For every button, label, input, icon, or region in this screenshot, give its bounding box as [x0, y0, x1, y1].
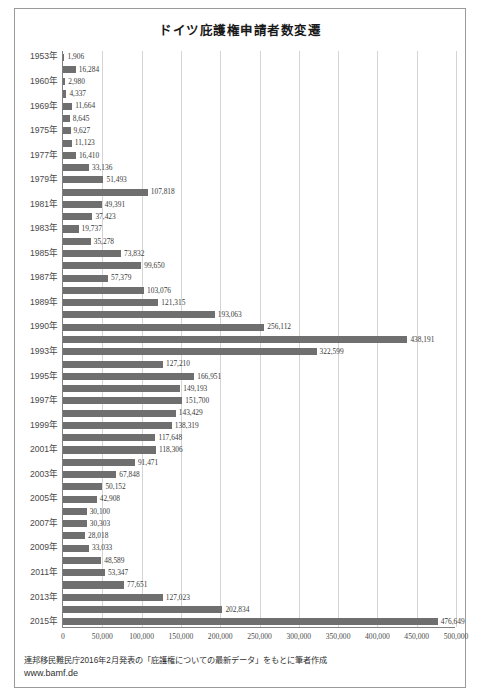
y-axis-tick-label: 1995年	[30, 370, 58, 382]
source-note: 連邦移民難民庁2016年2月発表の「庇護権についての最新データ」をもとに筆者作成	[24, 653, 327, 665]
bar	[63, 250, 121, 257]
y-axis-tick-label: 1979年	[30, 173, 58, 185]
y-axis-tick-label: 1977年	[30, 149, 58, 161]
bar-value-label: 49,391	[105, 199, 125, 210]
y-axis-tick-label: 1953年	[30, 50, 58, 62]
bar	[63, 201, 102, 208]
bar-value-label: 53,347	[108, 567, 128, 578]
bar-value-label: 30,100	[90, 506, 110, 517]
y-axis-tick-label: 1987年	[30, 271, 58, 283]
bar-value-label: 476,649	[441, 616, 465, 627]
bar-row: 322,5991993年	[63, 346, 455, 358]
bar	[63, 348, 317, 355]
bar-row: 117,648	[63, 432, 455, 444]
bar	[63, 483, 102, 490]
bar-row: 57,3791987年	[63, 272, 455, 284]
y-axis-tick-label: 2007年	[30, 517, 58, 529]
bar	[63, 152, 76, 159]
bar	[63, 140, 72, 147]
bar-row: 107,818	[63, 186, 455, 198]
bar	[63, 324, 264, 331]
bar	[63, 508, 87, 515]
bar-row: 35,278	[63, 235, 455, 247]
bar-row: 48,589	[63, 554, 455, 566]
bar-value-label: 202,834	[225, 604, 249, 615]
bar-value-label: 16,410	[79, 150, 99, 161]
bar	[63, 213, 92, 220]
bar-value-label: 16,284	[79, 64, 99, 75]
x-axis-tick-label: 50,000	[92, 632, 113, 641]
bar-value-label: 35,278	[94, 236, 114, 247]
bar-value-label: 73,832	[124, 248, 144, 259]
bar-row: 256,1121990年	[63, 321, 455, 333]
gridline	[456, 51, 457, 627]
bar-row: 99,650	[63, 260, 455, 272]
bar	[63, 385, 180, 392]
bar	[63, 471, 116, 478]
bar	[63, 115, 70, 122]
bar-value-label: 33,136	[92, 162, 112, 173]
bar-row: 193,063	[63, 309, 455, 321]
bar-value-label: 8,645	[73, 113, 90, 124]
bar-value-label: 127,023	[166, 592, 190, 603]
bar-value-label: 99,650	[144, 260, 164, 271]
bar-value-label: 103,076	[147, 285, 171, 296]
bar-row: 16,4101977年	[63, 149, 455, 161]
bar-row: 42,9082005年	[63, 493, 455, 505]
bar	[63, 532, 85, 539]
bar	[63, 225, 79, 232]
bar-value-label: 256,112	[267, 321, 291, 332]
bar	[63, 520, 87, 527]
bar-row: 151,7001997年	[63, 395, 455, 407]
bar-row: 1,9061953年	[63, 51, 455, 63]
bar	[63, 361, 163, 368]
bar-value-label: 37,423	[95, 211, 115, 222]
bar	[63, 422, 172, 429]
y-axis-tick-label: 1999年	[30, 419, 58, 431]
bar-row: 103,076	[63, 284, 455, 296]
bar-row: 30,3032007年	[63, 518, 455, 530]
y-axis-tick-label: 2003年	[30, 468, 58, 480]
bar-row: 121,3151989年	[63, 297, 455, 309]
bar-value-label: 67,848	[119, 469, 139, 480]
bar-value-label: 30,303	[90, 518, 110, 529]
source-url: www.bamf.de	[24, 668, 78, 678]
bar-row: 127,210	[63, 358, 455, 370]
bar-row: 91,471	[63, 456, 455, 468]
x-axis-tick-label: 250,000	[247, 632, 272, 641]
y-axis-tick-label: 1960年	[30, 75, 58, 87]
bar-value-label: 127,210	[166, 358, 190, 369]
y-axis-tick-label: 1993年	[30, 345, 58, 357]
y-axis-tick-label: 1983年	[30, 222, 58, 234]
y-axis-tick-label: 1989年	[30, 296, 58, 308]
bar-row: 11,6641969年	[63, 100, 455, 112]
bar-value-label: 4,337	[69, 88, 86, 99]
bar-row: 16,284	[63, 63, 455, 75]
bar-value-label: 51,493	[106, 174, 126, 185]
y-axis-tick-label: 1975年	[30, 124, 58, 136]
bar-value-label: 107,818	[151, 186, 175, 197]
bar-value-label: 149,193	[183, 383, 207, 394]
bar-row: 138,3191999年	[63, 419, 455, 431]
bar	[63, 397, 182, 404]
bar-value-label: 143,429	[179, 407, 203, 418]
bar-row: 37,423	[63, 211, 455, 223]
bar-value-label: 151,700	[185, 395, 209, 406]
bar-row: 28,018	[63, 530, 455, 542]
bar	[63, 569, 105, 576]
bar-row: 51,4931979年	[63, 174, 455, 186]
bar-value-label: 33,033	[92, 542, 112, 553]
bar-value-label: 1,906	[67, 51, 84, 62]
bar-row: 77,651	[63, 579, 455, 591]
bar-row: 166,9511995年	[63, 370, 455, 382]
bar	[63, 103, 72, 110]
bar-value-label: 121,315	[161, 297, 185, 308]
y-axis-tick-label: 1985年	[30, 247, 58, 259]
bar-row: 19,7371983年	[63, 223, 455, 235]
y-axis-tick-label: 2005年	[30, 492, 58, 504]
bar-row: 33,0332009年	[63, 542, 455, 554]
bar	[63, 496, 97, 503]
y-axis-tick-label: 1969年	[30, 100, 58, 112]
bar-row: 438,191	[63, 333, 455, 345]
y-axis-tick-label: 1990年	[30, 320, 58, 332]
